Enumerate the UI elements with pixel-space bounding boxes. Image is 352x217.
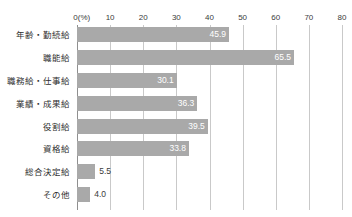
x-tick-label: 50 (238, 13, 247, 23)
x-tick-label: 10 (106, 13, 115, 23)
bar-value-label: 36.3 (77, 96, 197, 111)
category-label: 資格給 (0, 139, 73, 159)
category-label: 役割給 (0, 117, 73, 137)
category-label: 職務給・仕事給 (0, 71, 73, 91)
bar-value-label: 39.5 (77, 119, 208, 134)
x-axis-tick-labels: 0(%)1020304050607080 (0, 13, 352, 24)
bar-value-label: 33.8 (77, 141, 189, 156)
bar-row: 33.8 (77, 139, 342, 159)
bar-value-label: 45.9 (77, 27, 229, 42)
bar-rows: 45.965.530.136.339.533.85.54.0 (77, 25, 342, 208)
x-tick-label: 70 (304, 13, 313, 23)
gridline (342, 25, 343, 210)
bar-value-label: 30.1 (77, 73, 177, 88)
category-label: その他 (0, 185, 73, 205)
x-tick-label: 40 (205, 13, 214, 23)
bar-row: 4.0 (77, 185, 342, 205)
bar-value-label: 65.5 (77, 50, 294, 65)
x-tick-label: 30 (172, 13, 181, 23)
x-tick-label: 0(%) (73, 13, 90, 23)
x-tick-label: 80 (338, 13, 347, 23)
bar-row: 36.3 (77, 94, 342, 114)
x-tick-label: 60 (271, 13, 280, 23)
bar-row: 45.9 (77, 25, 342, 45)
bar-value-label: 4.0 (90, 187, 106, 202)
category-label: 総合決定給 (0, 162, 73, 182)
category-label: 業績・成果給 (0, 94, 73, 114)
bar (77, 187, 90, 202)
bar (77, 164, 95, 179)
bar-row: 39.5 (77, 117, 342, 137)
bar-row: 5.5 (77, 162, 342, 182)
category-labels: 年齢・勤続給職能給職務給・仕事給業績・成果給役割給資格給総合決定給その他 (0, 25, 73, 208)
bar-value-label: 5.5 (95, 164, 111, 179)
clipped-title (4, 0, 204, 5)
bar-row: 30.1 (77, 71, 342, 91)
bar-chart: 0(%)1020304050607080 45.965.530.136.339.… (0, 0, 352, 217)
bar-row: 65.5 (77, 48, 342, 68)
category-label: 年齢・勤続給 (0, 25, 73, 45)
plot-area: 45.965.530.136.339.533.85.54.0 (77, 25, 342, 210)
x-tick-label: 20 (139, 13, 148, 23)
category-label: 職能給 (0, 48, 73, 68)
